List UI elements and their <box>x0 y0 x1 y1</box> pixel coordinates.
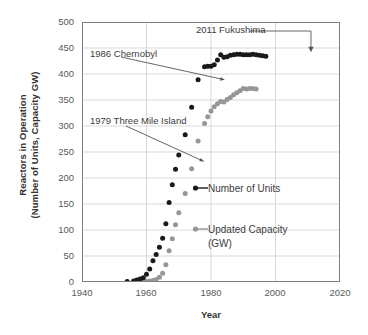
data-point <box>173 222 178 227</box>
data-point <box>150 258 155 263</box>
data-point <box>176 153 181 158</box>
data-point <box>167 248 172 253</box>
data-point <box>263 54 268 59</box>
x-tick-2000: 2000 <box>255 288 295 298</box>
y-tick-200: 200 <box>44 173 74 183</box>
x-tick-2020: 2020 <box>320 288 360 298</box>
data-point <box>176 210 181 215</box>
data-point <box>170 236 175 241</box>
annotation-chernobyl: 1986 Chernobyl <box>90 48 157 59</box>
data-point <box>170 182 175 187</box>
data-point <box>205 114 210 119</box>
data-point <box>254 87 259 92</box>
data-point <box>189 166 194 171</box>
data-point <box>163 221 168 226</box>
data-point <box>189 105 194 110</box>
y-tick-300: 300 <box>44 121 74 131</box>
y-tick-250: 250 <box>44 147 74 157</box>
legend-label-capacity-line2: (GW) <box>208 238 232 250</box>
x-tick-1960: 1960 <box>126 288 166 298</box>
x-axis-title: Year <box>82 309 340 320</box>
y-tick-100: 100 <box>44 225 74 235</box>
legend-markers <box>193 185 208 231</box>
y-tick-0: 0 <box>44 277 74 287</box>
data-point <box>147 267 152 272</box>
annotation-three-mile-island: 1979 Three Mile Island <box>90 115 186 126</box>
data-point <box>173 167 178 172</box>
y-tick-400: 400 <box>44 69 74 79</box>
y-tick-350: 350 <box>44 95 74 105</box>
data-point <box>202 121 207 126</box>
legend-label-units: Number of Units <box>208 183 280 195</box>
legend-label-capacity-line1: Updated Capacity <box>208 224 288 236</box>
data-point <box>209 108 214 113</box>
data-point <box>157 275 162 280</box>
data-point <box>160 236 165 241</box>
y-axis-title-line2: (Number of Units, Capacity GW) <box>29 15 41 275</box>
data-point <box>163 262 168 267</box>
y-axis-title: Reactors in Operation (Number of Units, … <box>17 15 51 275</box>
y-tick-500: 500 <box>44 17 74 27</box>
x-tick-1980: 1980 <box>191 288 231 298</box>
data-point <box>144 272 149 277</box>
data-point <box>196 139 201 144</box>
y-axis-title-line1: Reactors in Operation <box>17 15 29 275</box>
x-tick-1940: 1940 <box>62 288 102 298</box>
data-point <box>157 245 162 250</box>
data-point <box>196 77 201 82</box>
data-point <box>167 200 172 205</box>
data-point <box>183 132 188 137</box>
data-point <box>212 62 217 67</box>
y-tick-50: 50 <box>44 251 74 261</box>
data-point <box>160 271 165 276</box>
annotation-fukushima: 2011 Fukushima <box>196 24 266 35</box>
data-point <box>154 252 159 257</box>
y-tick-450: 450 <box>44 43 74 53</box>
y-tick-150: 150 <box>44 199 74 209</box>
chart-figure: Reactors in Operation (Number of Units, … <box>0 0 368 335</box>
data-point <box>215 57 220 62</box>
data-point <box>183 191 188 196</box>
